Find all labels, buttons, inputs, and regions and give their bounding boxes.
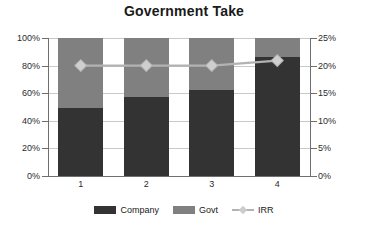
x-axis-label: 3 — [179, 179, 245, 189]
y-axis-right-label: 15% — [318, 88, 358, 98]
stacked-bar[interactable] — [255, 38, 300, 176]
y-axis-right-label: 10% — [318, 116, 358, 126]
y-axis-right-label: 0% — [318, 171, 358, 181]
legend-line-irr — [232, 206, 254, 214]
y-axis-right-label: 5% — [318, 143, 358, 153]
x-axis-label: 4 — [245, 179, 311, 189]
stacked-bar[interactable] — [58, 38, 103, 176]
y-axis-left-label: 0% — [0, 171, 40, 181]
y-tick-left — [42, 93, 48, 94]
bar-slot — [114, 38, 180, 176]
legend-item-company[interactable]: Company — [94, 205, 159, 215]
legend-swatch-govt — [173, 206, 195, 214]
y-tick-right — [311, 38, 317, 39]
bar-segment-company — [124, 97, 169, 176]
legend-label-company: Company — [120, 205, 159, 215]
legend-marker-diamond-icon — [239, 206, 247, 214]
plot-area — [48, 38, 310, 176]
y-tick-left — [42, 121, 48, 122]
bar-slot — [179, 38, 245, 176]
y-tick-right — [311, 66, 317, 67]
legend-label-irr: IRR — [258, 205, 274, 215]
y-axis-left-label: 80% — [0, 61, 40, 71]
y-axis-right-line — [310, 38, 311, 177]
y-tick-left — [42, 66, 48, 67]
y-axis-left-line — [48, 38, 49, 177]
y-tick-left — [42, 38, 48, 39]
bar-slot — [48, 38, 114, 176]
y-tick-right — [311, 176, 317, 177]
chart-legend: Company Govt IRR — [0, 205, 368, 215]
y-axis-left-label: 40% — [0, 116, 40, 126]
bar-segment-govt — [255, 38, 300, 57]
x-axis-label: 2 — [114, 179, 180, 189]
bar-segment-company — [189, 90, 234, 176]
bar-segment-govt — [58, 38, 103, 108]
y-tick-left — [42, 176, 48, 177]
y-axis-left-label: 20% — [0, 143, 40, 153]
bar-segment-company — [58, 108, 103, 176]
x-axis-labels: 1 2 3 4 — [48, 179, 310, 189]
y-tick-right — [311, 93, 317, 94]
stacked-bar[interactable] — [124, 38, 169, 176]
bar-segment-govt — [124, 38, 169, 97]
bar-segment-company — [255, 57, 300, 176]
legend-item-govt[interactable]: Govt — [173, 205, 218, 215]
legend-label-govt: Govt — [199, 205, 218, 215]
legend-swatch-company — [94, 206, 116, 214]
legend-item-irr[interactable]: IRR — [232, 205, 274, 215]
chart-title: Government Take — [0, 3, 368, 19]
y-axis-right-label: 20% — [318, 61, 358, 71]
y-tick-right — [311, 148, 317, 149]
y-axis-left-label: 60% — [0, 88, 40, 98]
x-axis-label: 1 — [48, 179, 114, 189]
chart-container: Government Take — [0, 0, 368, 229]
bar-slot — [245, 38, 311, 176]
y-axis-left-label: 100% — [0, 33, 40, 43]
y-tick-left — [42, 148, 48, 149]
x-axis-line — [48, 176, 311, 177]
y-tick-right — [311, 121, 317, 122]
bar-group — [48, 38, 310, 176]
stacked-bar[interactable] — [189, 38, 234, 176]
y-axis-right-label: 25% — [318, 33, 358, 43]
bar-segment-govt — [189, 38, 234, 90]
